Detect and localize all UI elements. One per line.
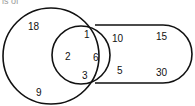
venn-diagram: is of 18 9 1 2 6 3 10 15 5 30 (0, 0, 195, 106)
label-2: 2 (65, 51, 71, 62)
label-15: 15 (156, 31, 168, 42)
cropped-header-text: is of (2, 0, 19, 6)
label-6: 6 (93, 52, 99, 63)
label-9: 9 (36, 87, 42, 98)
small-circle-set-outline (52, 26, 110, 84)
label-30: 30 (156, 67, 168, 78)
label-10: 10 (112, 33, 124, 44)
label-3: 3 (82, 70, 88, 81)
large-circle-set-outline (3, 8, 99, 104)
label-1: 1 (84, 29, 90, 40)
label-5: 5 (117, 65, 123, 76)
label-18: 18 (28, 21, 40, 32)
